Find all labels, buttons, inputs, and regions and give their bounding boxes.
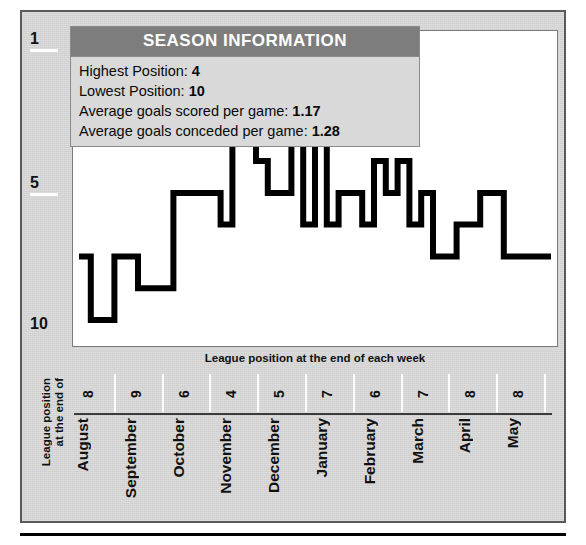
- y-axis-tick-label: 5: [30, 174, 39, 192]
- info-label: Lowest Position:: [79, 83, 185, 99]
- month-label: September: [122, 418, 146, 498]
- month-label: November: [217, 418, 241, 494]
- month-label: August: [74, 418, 98, 471]
- month-label: March: [409, 418, 433, 464]
- month-axis-separator: [544, 374, 546, 412]
- info-label: Average goals scored per game:: [79, 103, 288, 119]
- month-label: December: [265, 418, 289, 493]
- y-axis-tick-10: 10: [26, 315, 72, 337]
- month-label: May: [504, 418, 528, 448]
- month-axis-separator: [448, 374, 450, 412]
- info-value: 10: [189, 83, 205, 99]
- league-position-line: [79, 129, 551, 320]
- month-end-position-value: 6: [361, 376, 383, 412]
- month-axis-separator: [305, 374, 307, 412]
- month-end-position-value: 8: [74, 376, 96, 412]
- info-label: Average goals conceded per game:: [79, 123, 308, 139]
- month-label: October: [170, 418, 194, 477]
- month-axis-separator: [209, 374, 211, 412]
- month-end-position-value: 8: [456, 376, 478, 412]
- y-axis-tick-label: 1: [30, 30, 39, 48]
- month-end-position-value: 5: [265, 376, 287, 412]
- season-information-panel: SEASON INFORMATION Highest Position: 4 L…: [70, 26, 420, 147]
- month-axis: 8August9September6October4November5Decem…: [22, 374, 568, 521]
- month-label: January: [313, 418, 337, 477]
- info-label: Highest Position:: [79, 63, 188, 79]
- screenshot-root: 1 5 10 SEASON INFORMATION Highest Positi…: [0, 0, 586, 545]
- month-end-position-value: 7: [313, 376, 335, 412]
- month-end-position-value: 9: [122, 376, 144, 412]
- bottom-divider-rule: [20, 533, 566, 536]
- info-row-highest-position: Highest Position: 4: [79, 61, 419, 81]
- y-axis: 1 5 10: [22, 12, 74, 362]
- season-graph-card: 1 5 10 SEASON INFORMATION Highest Positi…: [20, 10, 566, 523]
- month-end-position-value: 7: [409, 376, 431, 412]
- info-row-lowest-position: Lowest Position: 10: [79, 81, 419, 101]
- season-information-body: Highest Position: 4 Lowest Position: 10 …: [71, 57, 419, 146]
- y-axis-tick-label: 10: [30, 315, 48, 333]
- month-axis-separator: [401, 374, 403, 412]
- info-value: 1.28: [312, 123, 340, 139]
- season-information-title: SEASON INFORMATION: [71, 27, 419, 57]
- month-axis-separator: [114, 374, 116, 412]
- info-value: 4: [192, 63, 200, 79]
- y-axis-tick-5: 5: [26, 174, 72, 196]
- info-row-avg-goals-conceded: Average goals conceded per game: 1.28: [79, 121, 419, 141]
- month-end-position-value: 8: [504, 376, 526, 412]
- month-label: February: [361, 418, 385, 484]
- month-label: April: [456, 418, 480, 453]
- info-value: 1.17: [292, 103, 320, 119]
- y-axis-tick-mark: [30, 193, 58, 196]
- month-axis-separator: [162, 374, 164, 412]
- month-axis-separator: [353, 374, 355, 412]
- y-axis-tick-1: 1: [26, 30, 72, 52]
- y-axis-tick-mark: [30, 49, 58, 52]
- info-row-avg-goals-scored: Average goals scored per game: 1.17: [79, 101, 419, 121]
- month-end-position-value: 4: [217, 376, 239, 412]
- plot-caption: League position at the end of each week: [72, 352, 558, 364]
- month-axis-separator: [257, 374, 259, 412]
- month-axis-separator: [496, 374, 498, 412]
- month-end-position-value: 6: [170, 376, 192, 412]
